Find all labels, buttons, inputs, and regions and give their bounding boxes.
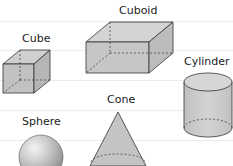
- sphere-shape: [0, 0, 233, 166]
